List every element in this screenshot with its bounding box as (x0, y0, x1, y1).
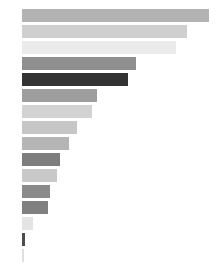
bar-segment[interactable] (22, 73, 128, 86)
bar-row[interactable] (0, 89, 219, 102)
bar-row[interactable] (0, 249, 219, 262)
bar-segment[interactable] (22, 185, 50, 198)
bar-segment[interactable] (22, 169, 57, 182)
bar-segment[interactable] (22, 201, 48, 214)
bar-row[interactable] (0, 41, 219, 54)
bar-row[interactable] (0, 169, 219, 182)
bar-segment[interactable] (22, 121, 77, 134)
bar-segment[interactable] (22, 217, 33, 230)
bar-row[interactable] (0, 105, 219, 118)
bar-segment[interactable] (22, 9, 209, 22)
bar-row[interactable] (0, 137, 219, 150)
bar-chart (0, 0, 219, 278)
bar-row[interactable] (0, 233, 219, 246)
plot-area (0, 0, 219, 278)
bar-row[interactable] (0, 57, 219, 70)
bar-segment[interactable] (22, 41, 176, 54)
bar-row[interactable] (0, 9, 219, 22)
bar-row[interactable] (0, 73, 219, 86)
bar-row[interactable] (0, 153, 219, 166)
bar-segment[interactable] (22, 233, 25, 246)
bar-row[interactable] (0, 217, 219, 230)
bar-segment[interactable] (22, 249, 24, 262)
bar-segment[interactable] (22, 153, 60, 166)
bar-segment[interactable] (22, 25, 187, 38)
bar-segment[interactable] (22, 105, 92, 118)
bar-segment[interactable] (22, 137, 69, 150)
bar-row[interactable] (0, 201, 219, 214)
bar-row[interactable] (0, 185, 219, 198)
bar-segment[interactable] (22, 89, 97, 102)
bar-row[interactable] (0, 121, 219, 134)
bar-row[interactable] (0, 25, 219, 38)
bar-segment[interactable] (22, 57, 136, 70)
